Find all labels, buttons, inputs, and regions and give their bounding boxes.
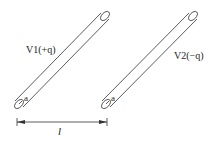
conductor-1-radius: [19, 101, 22, 104]
separation-label: l: [58, 125, 61, 137]
conductor-1-radius-label: a: [24, 93, 28, 103]
conductor-1-potential: V1: [26, 44, 38, 55]
conductor-2-charge: (−q): [186, 50, 203, 61]
conductor-1-charge: (+q): [38, 44, 55, 55]
conductor-2-radius-label: a: [111, 93, 115, 103]
separation-arrow: [17, 118, 107, 126]
conductor-1-label: V1(+q): [26, 44, 56, 55]
conductor-2-potential: V2: [174, 50, 186, 61]
diagram-canvas: [0, 0, 213, 141]
conductor-2-radius: [106, 101, 109, 104]
conductor-2-label: V2(−q): [174, 50, 204, 61]
